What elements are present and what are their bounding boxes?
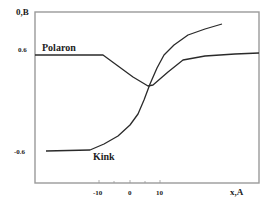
x-tick-neg-10: -10 xyxy=(93,190,102,197)
polaron-label: Polaron xyxy=(42,43,76,53)
y-tick-0.6: 0.6 xyxy=(18,47,27,54)
polaron-curve xyxy=(35,53,259,86)
plot-frame xyxy=(35,12,259,183)
x-tick-10: 10 xyxy=(156,190,163,197)
y-axis-label: 0,B xyxy=(16,8,29,17)
kink-label: Kink xyxy=(93,152,115,162)
x-axis-label: x,A xyxy=(230,188,243,197)
x-tick-0: 0 xyxy=(128,190,132,197)
chart-canvas xyxy=(0,0,273,204)
y-tick-neg-0.6: -0.6 xyxy=(14,149,25,156)
